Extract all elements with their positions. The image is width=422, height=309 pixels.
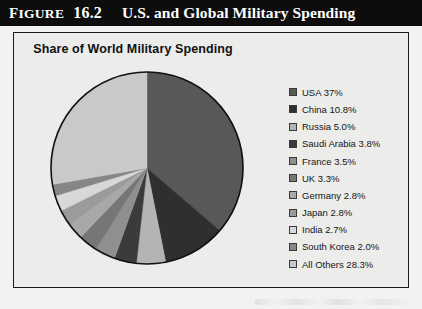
legend-swatch-icon — [289, 123, 297, 131]
pie-chart — [48, 69, 246, 267]
legend-item-label: All Others 28.3% — [302, 259, 373, 270]
legend-item-label: South Korea 2.0% — [302, 241, 379, 252]
legend-item-label: Germany 2.8% — [302, 190, 365, 201]
legend-item[interactable]: India 2.7% — [289, 222, 404, 239]
legend-swatch-icon — [289, 260, 297, 268]
pie-slice-group — [51, 72, 243, 264]
legend-swatch-icon — [289, 88, 297, 96]
legend-swatch-icon — [289, 191, 297, 199]
legend-item-label: France 3.5% — [302, 156, 356, 167]
legend-item[interactable]: France 3.5% — [289, 153, 404, 170]
legend-swatch-icon — [289, 140, 297, 148]
legend-item[interactable]: UK 3.3% — [289, 170, 404, 187]
legend-swatch-icon — [289, 105, 297, 113]
legend-swatch-icon — [289, 243, 297, 251]
pie-chart-svg — [48, 69, 246, 267]
legend-item-label: Saudi Arabia 3.8% — [302, 138, 380, 149]
legend-item-label: USA 37% — [302, 87, 343, 98]
page-artifact — [255, 299, 415, 305]
figure-number: 16.2 — [73, 4, 102, 22]
chart-legend: USA 37%China 10.8%Russia 5.0%Saudi Arabi… — [289, 84, 404, 273]
figure-container: FIGURE 16.2 U.S. and Global Military Spe… — [0, 0, 422, 309]
legend-item[interactable]: China 10.8% — [289, 101, 404, 118]
figure-label: FIGURE — [9, 5, 64, 22]
figure-heading: U.S. and Global Military Spending — [122, 4, 355, 22]
legend-item[interactable]: USA 37% — [289, 84, 404, 101]
legend-item-label: UK 3.3% — [302, 173, 340, 184]
legend-item-label: Russia 5.0% — [302, 121, 355, 132]
pie-slice[interactable] — [51, 72, 147, 184]
chart-title-text: Share of World Military Spending — [33, 42, 233, 56]
legend-swatch-icon — [289, 174, 297, 182]
legend-swatch-icon — [289, 157, 297, 165]
legend-item-label: India 2.7% — [302, 224, 347, 235]
chart-panel: Share of World Military Spending USA 37%… — [13, 32, 409, 288]
legend-item-label: Japan 2.8% — [302, 207, 352, 218]
legend-item[interactable]: Saudi Arabia 3.8% — [289, 136, 404, 153]
legend-item[interactable]: Japan 2.8% — [289, 204, 404, 221]
legend-item[interactable]: South Korea 2.0% — [289, 239, 404, 256]
legend-swatch-icon — [289, 209, 297, 217]
figure-label-rest: IGURE — [18, 6, 64, 21]
chart-title: Share of World Military Spending — [14, 42, 408, 56]
legend-item[interactable]: All Others 28.3% — [289, 256, 404, 273]
legend-item[interactable]: Russia 5.0% — [289, 118, 404, 135]
legend-item[interactable]: Germany 2.8% — [289, 187, 404, 204]
legend-item-label: China 10.8% — [302, 104, 356, 115]
figure-title-bar: FIGURE 16.2 U.S. and Global Military Spe… — [0, 0, 422, 26]
legend-swatch-icon — [289, 226, 297, 234]
